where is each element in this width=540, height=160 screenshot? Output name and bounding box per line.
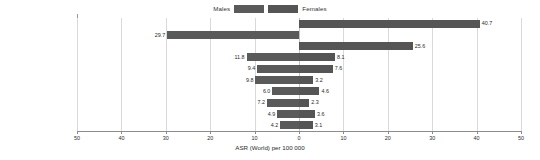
legend-swatch-females bbox=[268, 5, 298, 13]
chart-row: Breast40.7 bbox=[77, 18, 521, 29]
bar-females bbox=[299, 99, 309, 107]
bar-value-males: 9.4 bbox=[248, 64, 256, 72]
bar-value-males: 6.0 bbox=[263, 87, 271, 95]
x-axis-tick bbox=[432, 131, 433, 134]
x-axis-tick-label: 0 bbox=[298, 135, 301, 142]
chart-row: Bladder7.22.3 bbox=[77, 97, 521, 108]
x-axis-title: ASR (World) per 100 000 bbox=[0, 144, 540, 151]
bar-females bbox=[299, 65, 333, 73]
bar-value-males: 29.7 bbox=[155, 31, 166, 39]
gridline bbox=[521, 18, 522, 131]
x-axis-tick bbox=[210, 131, 211, 134]
bar-females bbox=[299, 121, 313, 129]
bar-value-females: 8.1 bbox=[337, 53, 345, 61]
bar-value-females: 40.7 bbox=[482, 19, 493, 27]
x-axis-tick bbox=[255, 131, 256, 134]
chart-row: Oesophagus4.23.1 bbox=[77, 120, 521, 131]
bar-value-females: 2.3 bbox=[311, 98, 319, 106]
x-axis-tick bbox=[299, 131, 300, 134]
x-axis-tick-label: 10 bbox=[340, 135, 346, 142]
x-axis-tick bbox=[77, 131, 78, 134]
bar-males bbox=[280, 121, 299, 129]
x-axis-tick bbox=[477, 131, 478, 134]
x-axis-tick-label: 40 bbox=[118, 135, 124, 142]
chart-row: Prostate29.7 bbox=[77, 29, 521, 40]
bar-females bbox=[299, 20, 480, 28]
bar-males bbox=[257, 65, 299, 73]
bar-value-males: 9.8 bbox=[246, 76, 254, 84]
bar-value-males: 4.9 bbox=[268, 110, 276, 118]
legend-label-males: Males bbox=[213, 6, 230, 12]
chart-legend: Males Females bbox=[0, 2, 540, 16]
x-axis-tick-label: 30 bbox=[163, 135, 169, 142]
bar-males bbox=[167, 31, 299, 39]
bar-value-males: 7.2 bbox=[258, 98, 266, 106]
chart-row: Liver11.88.1 bbox=[77, 52, 521, 63]
bar-males bbox=[277, 110, 299, 118]
bar-females bbox=[299, 53, 335, 61]
bar-value-males: 4.2 bbox=[271, 121, 279, 129]
chart-row: Lung9.83.2 bbox=[77, 75, 521, 86]
x-axis-tick bbox=[521, 131, 522, 134]
x-axis-tick-label: 10 bbox=[252, 135, 258, 142]
bar-value-females: 7.6 bbox=[335, 64, 343, 72]
bar-females bbox=[299, 87, 319, 95]
bar-value-females: 3.6 bbox=[317, 110, 325, 118]
bar-females bbox=[299, 76, 313, 84]
bar-males bbox=[247, 53, 299, 61]
x-axis-tick bbox=[166, 131, 167, 134]
bar-value-females: 3.2 bbox=[315, 76, 323, 84]
bar-males bbox=[255, 76, 299, 84]
x-axis-tick bbox=[388, 131, 389, 134]
legend-label-females: Females bbox=[302, 6, 326, 12]
bar-value-females: 4.6 bbox=[321, 87, 329, 95]
x-axis-tick-label: 20 bbox=[385, 135, 391, 142]
bar-males bbox=[267, 99, 299, 107]
chart-row: Stomach4.93.6 bbox=[77, 108, 521, 119]
x-axis-tick bbox=[121, 131, 122, 134]
pyramid-bar-chart: Males Females Breast40.7Prostate29.7Cerv… bbox=[0, 0, 540, 160]
bar-males bbox=[272, 87, 299, 95]
x-axis-tick-label: 40 bbox=[474, 135, 480, 142]
bar-value-females: 25.6 bbox=[415, 42, 426, 50]
x-axis-tick-label: 50 bbox=[518, 135, 524, 142]
x-axis-tick bbox=[343, 131, 344, 134]
bar-females bbox=[299, 42, 413, 50]
chart-row: Colorectum9.47.6 bbox=[77, 63, 521, 74]
bar-value-females: 3.1 bbox=[315, 121, 323, 129]
plot-area: Breast40.7Prostate29.7Cervix uteri25.6Li… bbox=[77, 18, 521, 131]
chart-row: Cervix uteri25.6 bbox=[77, 41, 521, 52]
legend-swatch-males bbox=[234, 5, 264, 13]
x-axis-tick-label: 50 bbox=[74, 135, 80, 142]
bar-females bbox=[299, 110, 315, 118]
x-axis-tick-label: 30 bbox=[429, 135, 435, 142]
x-axis-tick-label: 20 bbox=[207, 135, 213, 142]
chart-row: Non-Hodgkin lymphoma6.04.6 bbox=[77, 86, 521, 97]
bar-value-males: 11.8 bbox=[235, 53, 245, 61]
